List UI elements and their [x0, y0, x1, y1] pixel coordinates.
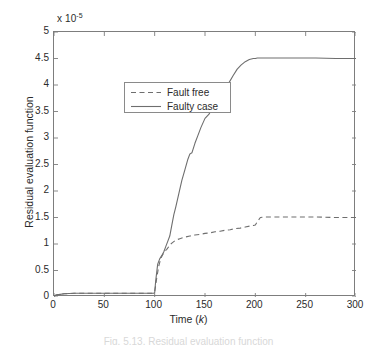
legend-entry-faulty-case: Faulty case	[125, 100, 230, 113]
plot-area: Fault free Faulty case	[53, 31, 355, 296]
y-tick-label: 4	[18, 79, 49, 89]
legend-swatch-solid	[130, 102, 162, 111]
caption-fragment: Fig. 5.13. Residual evaluation function	[0, 336, 377, 345]
x-tick-label: 100	[145, 299, 162, 310]
y-tick-label: 1.5	[18, 212, 49, 222]
y-tick-label: 4.5	[18, 53, 49, 63]
y-tick-label: 3.5	[18, 106, 49, 116]
y-axis-tick-labels: 00.511.522.533.544.55	[18, 0, 49, 345]
x-tick-label: 300	[347, 299, 364, 310]
axis-tick-marks	[54, 32, 356, 297]
y-tick-label: 2	[18, 185, 49, 195]
y-tick-label: 1	[18, 238, 49, 248]
x-tick-label: 0	[50, 299, 56, 310]
chart-canvas	[54, 32, 356, 297]
y-tick-label: 0.5	[18, 265, 49, 275]
y-tick-label: 2.5	[18, 159, 49, 169]
x-tick-label: 200	[246, 299, 263, 310]
y-axis-exponent-power: -5	[76, 12, 82, 19]
legend-label-fault-free: Fault free	[167, 87, 209, 98]
y-tick-label: 3	[18, 132, 49, 142]
x-tick-label: 150	[196, 299, 213, 310]
legend-label-faulty-case: Faulty case	[167, 101, 218, 112]
series-line-fault-free	[54, 217, 356, 296]
legend-swatch-dashed	[130, 88, 162, 97]
y-axis-exponent-label: x 10-5	[57, 12, 83, 24]
legend-entry-fault-free: Fault free	[125, 86, 230, 99]
y-tick-label: 5	[18, 26, 49, 36]
y-axis-exponent-base: x 10	[57, 13, 76, 24]
figure-container: x 10-5 Residual evaluation function 00.5…	[0, 0, 377, 345]
chart-legend: Fault free Faulty case	[124, 82, 231, 113]
x-axis-title: Time (k)	[0, 313, 377, 325]
x-tick-label: 50	[98, 299, 109, 310]
x-tick-label: 250	[296, 299, 313, 310]
x-axis-title-variable: k	[199, 313, 204, 325]
